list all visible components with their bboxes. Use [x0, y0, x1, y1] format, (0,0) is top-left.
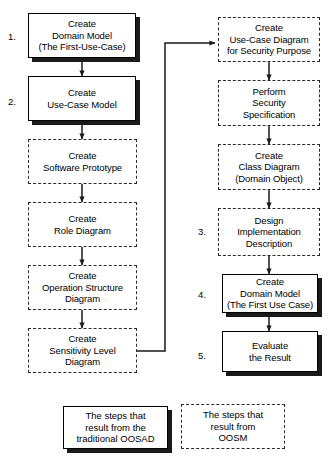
- step-number-2: 2.: [8, 96, 16, 107]
- node-create-domain-model-2: Create Domain Model (The First Use Case): [222, 274, 318, 313]
- node-design-implementation-description: Design Implementation Description: [218, 208, 320, 256]
- node-label: Create Class Diagram (Domain Object): [233, 150, 305, 184]
- node-label: Create Operation Structure Diagram: [40, 270, 125, 304]
- arrow-left-to-right-column: [137, 43, 215, 351]
- node-perform-security-specification: Perform Security Specification: [218, 80, 320, 126]
- node-create-sensitivity-level-diagram: Create Sensitivity Level Diagram: [28, 328, 137, 373]
- node-label: Design Implementation Description: [235, 215, 303, 249]
- legend-label: The steps that result from the tradition…: [74, 410, 156, 445]
- step-number-5: 5.: [198, 350, 206, 361]
- node-label: Create Sensitivity Level Diagram: [47, 333, 117, 367]
- node-create-class-diagram: Create Class Diagram (Domain Object): [218, 144, 320, 190]
- step-number-4: 4.: [198, 289, 206, 300]
- node-label: Create Use-Case Diagram for Security Pur…: [225, 22, 313, 56]
- node-label: Create Domain Model (The First Use Case): [225, 276, 315, 310]
- node-evaluate-the-result: Evaluate the Result: [222, 331, 318, 372]
- node-label: Create Domain Model (The First-Use-Case): [36, 18, 127, 52]
- node-label: Perform Security Specification: [241, 86, 298, 120]
- legend-label: The steps that result from OOSM: [201, 409, 265, 444]
- node-create-use-case-diagram-security: Create Use-Case Diagram for Security Pur…: [218, 17, 320, 62]
- node-create-use-case-model: Create Use-Case Model: [28, 76, 136, 121]
- legend-oosm: The steps that result from OOSM: [181, 404, 285, 449]
- node-create-role-diagram: Create Role Diagram: [28, 202, 137, 247]
- node-create-domain-model: Create Domain Model (The First-Use-Case): [28, 13, 136, 58]
- step-number-1: 1.: [8, 31, 16, 42]
- step-number-3: 3.: [198, 226, 206, 237]
- node-create-software-prototype: Create Software Prototype: [28, 139, 137, 184]
- node-label: Create Use-Case Model: [45, 87, 118, 110]
- node-label: Evaluate the Result: [247, 340, 293, 363]
- node-label: Create Software Prototype: [41, 150, 124, 173]
- node-label: Create Role Diagram: [52, 213, 113, 236]
- legend-oosad: The steps that result from the tradition…: [63, 406, 168, 449]
- flowchart-diagram: 1. Create Domain Model (The First-Use-Ca…: [0, 0, 332, 462]
- node-create-operation-structure-diagram: Create Operation Structure Diagram: [28, 265, 137, 310]
